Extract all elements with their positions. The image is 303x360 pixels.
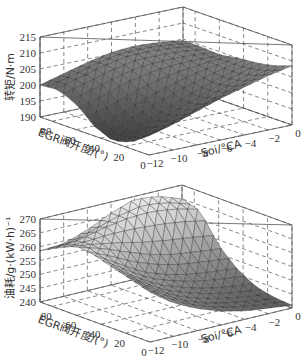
z-tick-label: 270 (20, 213, 37, 225)
z-tick-label: 245 (20, 282, 37, 294)
z-axis-label: 油耗/g·(kW·h)⁻¹ (3, 217, 17, 300)
soi-tick-label: −4 (245, 321, 257, 333)
soi-tick-label: 0 (295, 127, 301, 139)
z-tick-label: 190 (20, 111, 37, 123)
surface-chart-2: 240245250255260265270020406080−12−10−8−6… (3, 185, 301, 358)
soi-tick-label: −10 (170, 152, 188, 164)
soi-tick-label: −4 (244, 137, 256, 149)
egr-tick-label: 20 (114, 337, 126, 349)
surface-plots: 190195200205210215020406080−12−10−8−6−4−… (0, 0, 303, 360)
z-tick-label: 195 (20, 95, 37, 107)
soi-tick-label: −12 (147, 344, 164, 356)
surface-chart-1: 190195200205210215020406080−12−10−8−6−4−… (3, 7, 301, 171)
z-tick-label: 250 (20, 268, 37, 280)
surface-mesh (40, 41, 292, 142)
z-tick-label: 205 (20, 63, 37, 75)
soi-tick-label: 0 (295, 310, 301, 322)
soi-axis-label: Soi/°CA (200, 137, 244, 160)
egr-tick-label: 0 (140, 159, 146, 171)
soi-tick-label: −12 (146, 157, 163, 169)
soi-tick-label: −10 (171, 338, 189, 350)
z-tick-label: 240 (20, 296, 37, 308)
z-tick-label: 215 (20, 31, 37, 43)
egr-tick-label: 0 (141, 346, 147, 358)
z-tick-label: 260 (20, 241, 37, 253)
soi-tick-label: −2 (268, 316, 280, 328)
surface-mesh (40, 197, 292, 312)
z-tick-label: 210 (20, 47, 37, 59)
z-tick-label: 200 (20, 79, 37, 91)
egr-tick-label: 20 (113, 151, 125, 163)
z-tick-label: 255 (20, 255, 37, 267)
z-tick-label: 265 (20, 227, 37, 239)
z-axis-label: 转矩/N·m (3, 53, 17, 101)
soi-tick-label: −2 (268, 132, 280, 144)
